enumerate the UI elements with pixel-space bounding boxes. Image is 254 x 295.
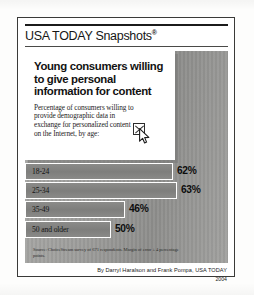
masthead-title: USA TODAY Snapshots® (25, 29, 228, 43)
bar-category-label: 35-49 (26, 205, 49, 214)
infographic-frame: USA TODAY Snapshots® Young consumers wil… (17, 17, 235, 277)
bar-35-49: 35-49 (25, 201, 125, 218)
bar-25-34: 25-34 (25, 182, 177, 199)
bar-value-label: 62% (177, 165, 197, 176)
bar-50-and-older: 50 and older (25, 221, 111, 238)
page-title: Young consumers willing to give personal… (34, 60, 167, 98)
bar-chart: 18-24 62% 25-34 63% 35-49 46% (25, 163, 228, 240)
masthead-title-text: USA TODAY Snapshots (25, 30, 152, 44)
chart-subtitle: Percentage of consumers willing to provi… (34, 104, 138, 138)
masthead-top-rule (25, 24, 228, 26)
masthead-bottom-rule (25, 46, 228, 47)
bar-row: 18-24 62% (25, 163, 228, 180)
snapshot-page: USA TODAY Snapshots® Young consumers wil… (0, 0, 254, 295)
byline-credit: By Darryl Haralson and Frank Pompa, USA … (24, 267, 227, 273)
bar-category-label: 18-24 (26, 167, 49, 176)
registered-trademark-icon: ® (152, 29, 157, 36)
bar-category-label: 25-34 (26, 186, 49, 195)
byline-year: 2004 (24, 276, 227, 282)
bar-row: 50 and older 50% (25, 221, 228, 238)
bar-value-label: 63% (181, 184, 201, 195)
bar-row: 35-49 46% (25, 201, 228, 218)
bar-18-24: 18-24 (25, 163, 173, 180)
bar-category-label: 50 and older (26, 225, 69, 234)
bar-value-label: 46% (129, 203, 149, 214)
headline-card: Young consumers willing to give personal… (25, 51, 175, 160)
byline: By Darryl Haralson and Frank Pompa, USA … (24, 267, 227, 282)
chart-panel: Young consumers willing to give personal… (25, 51, 228, 263)
masthead: USA TODAY Snapshots® (25, 24, 228, 46)
source-note: Source: ChoiceStream survey of 671 respo… (33, 247, 183, 258)
mouse-cursor-icon (139, 128, 150, 144)
bar-value-label: 50% (115, 223, 135, 234)
checkbox-cursor-graphic (133, 123, 163, 153)
bar-row: 25-34 63% (25, 182, 228, 199)
